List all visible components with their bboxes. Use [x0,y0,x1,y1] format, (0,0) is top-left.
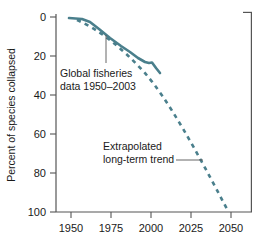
fisheries-annotation-line1: Global fisheries [60,67,132,79]
x-tick-label-2000: 2000 [139,222,163,234]
x-axis-ticks [71,212,231,218]
extrapolated-trend-line [77,20,228,211]
y-tick-label-100: 100 [28,206,46,218]
y-tick-label-20: 20 [34,50,46,62]
extrapolated-annotation-line2: long-term trend [103,153,174,165]
x-tick-label-1975: 1975 [99,222,123,234]
y-tick-label-0: 0 [40,11,46,23]
fisheries-annotation-line2: data 1950–2003 [60,80,136,92]
chart-canvas: 0 20 40 60 80 100 1950 1975 2000 2025 20… [0,0,269,252]
extrapolated-annotation-line1: Extrapolated [103,140,162,152]
chart-figure: 0 20 40 60 80 100 1950 1975 2000 2025 20… [0,0,269,252]
y-tick-label-80: 80 [34,167,46,179]
x-tick-label-2050: 2050 [219,222,243,234]
y-axis-ticks [50,17,56,212]
y-axis-title: Percent of species collapsed [5,48,17,182]
x-tick-label-1950: 1950 [59,222,83,234]
x-tick-label-2025: 2025 [179,222,203,234]
y-tick-label-40: 40 [34,89,46,101]
fisheries-data-line [69,18,160,73]
y-tick-label-60: 60 [34,128,46,140]
